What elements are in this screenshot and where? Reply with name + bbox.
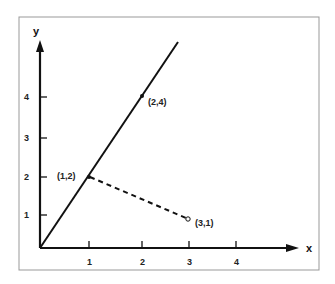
x-tick-label-3: 3 <box>187 257 192 267</box>
point-label-2-4: (2,4) <box>148 97 167 107</box>
y-axis-label: y <box>33 25 40 37</box>
point-1-2 <box>87 175 91 179</box>
y-tick-label-2: 2 <box>24 172 29 182</box>
y-tick-label-3: 3 <box>24 133 29 143</box>
x-tick-label-2: 2 <box>140 257 145 267</box>
x-tick-label-1: 1 <box>87 257 92 267</box>
y-tick-label-4: 4 <box>24 92 29 102</box>
point-3-1 <box>186 217 190 221</box>
y-tick-label-1: 1 <box>24 210 29 220</box>
x-tick-label-4: 4 <box>234 257 239 267</box>
coordinate-diagram: y x 1 2 3 4 1 2 3 4 (1,2) (2,4) (3,1) <box>0 0 335 284</box>
point-2-4 <box>140 94 144 98</box>
x-axis-label: x <box>306 242 313 254</box>
point-label-3-1: (3,1) <box>195 218 214 228</box>
point-label-1-2: (1,2) <box>57 171 76 181</box>
